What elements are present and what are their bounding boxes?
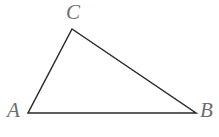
- vertex-label-b: B: [200, 100, 213, 121]
- triangle-svg: [0, 0, 219, 137]
- vertex-label-c: C: [66, 2, 80, 23]
- triangle-outline-abc: [28, 29, 196, 113]
- triangle-diagram-canvas: A B C: [0, 0, 219, 137]
- vertex-label-a: A: [7, 100, 20, 121]
